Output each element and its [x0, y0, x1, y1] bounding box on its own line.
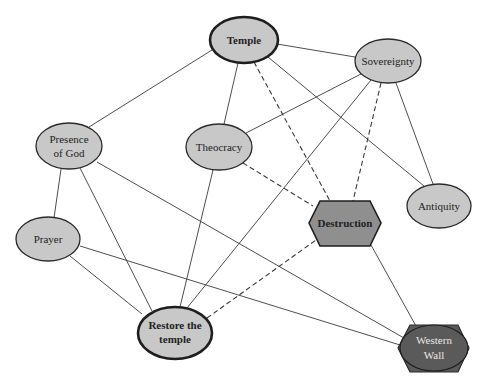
- edge-prayer-restore: [70, 256, 142, 314]
- edge-theocracy-restore: [180, 170, 213, 307]
- edge-presence-restore: [80, 168, 152, 311]
- edge-temple-sovereignty: [277, 44, 355, 57]
- edge-sovereignty-antiquity: [396, 83, 433, 184]
- edges: [54, 44, 433, 345]
- node-prayer[interactable]: Prayer: [16, 217, 80, 261]
- restore-label-line1: Restore the: [148, 319, 201, 331]
- western-wall-label-line2: Wall: [424, 349, 445, 361]
- edge-presence-prayer: [54, 169, 61, 218]
- edge-sovereignty-theocracy: [246, 74, 361, 133]
- theocracy-label: Theocracy: [196, 141, 243, 153]
- temple-label: Temple: [227, 34, 262, 46]
- node-sovereignty[interactable]: Sovereignty: [355, 39, 421, 83]
- destruction-label: Destruction: [318, 217, 373, 229]
- concept-diagram: Temple Sovereignty Presence of God Theoc…: [0, 0, 488, 383]
- edge-prayer-western-wall: [80, 246, 400, 345]
- presence-label-line1: Presence: [49, 133, 88, 145]
- node-antiquity[interactable]: Antiquity: [407, 184, 471, 228]
- node-western-wall[interactable]: Western Wall: [398, 325, 469, 372]
- edge-restore-destruction[interactable]: [207, 240, 316, 318]
- edge-temple-theocracy: [224, 63, 238, 124]
- edge-temple-presence: [89, 50, 212, 127]
- node-destruction[interactable]: Destruction: [309, 201, 381, 246]
- node-temple[interactable]: Temple: [210, 17, 278, 63]
- presence-label-line2: of God: [54, 147, 85, 159]
- node-theocracy[interactable]: Theocracy: [186, 124, 252, 170]
- node-restore-the-temple[interactable]: Restore the temple: [138, 307, 212, 359]
- antiquity-label: Antiquity: [418, 200, 461, 212]
- edge-temple-destruction[interactable]: [254, 62, 330, 201]
- edge-destruction-western-wall: [371, 245, 416, 326]
- prayer-label: Prayer: [34, 233, 63, 245]
- node-presence-of-god[interactable]: Presence of God: [36, 123, 102, 169]
- western-wall-label-line1: Western: [416, 334, 452, 346]
- sovereignty-label: Sovereignty: [361, 55, 415, 67]
- edge-sovereignty-restore: [187, 80, 371, 308]
- edge-sovereignty-destruction[interactable]: [353, 83, 381, 201]
- restore-label-line2: temple: [159, 333, 191, 345]
- edge-theocracy-destruction[interactable]: [243, 163, 313, 206]
- edge-presence-western-wall: [97, 162, 404, 338]
